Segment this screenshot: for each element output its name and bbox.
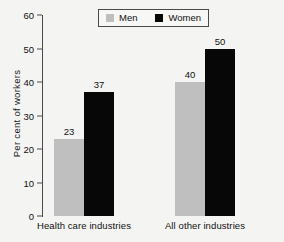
- bar-men-health-care: [54, 139, 84, 216]
- y-tick-label: 50: [8, 43, 34, 54]
- legend-item-men: Men: [106, 12, 137, 23]
- legend-label-women: Women: [168, 12, 201, 23]
- bar-value-label: 23: [64, 126, 75, 137]
- bar-value-label: 50: [215, 36, 226, 47]
- women-swatch-icon: [155, 14, 163, 22]
- y-tick-label: 20: [8, 144, 34, 155]
- bar-value-label: 37: [94, 79, 105, 90]
- y-tick-label: 30: [8, 110, 34, 121]
- x-axis-category-label: Health care industries: [37, 220, 131, 231]
- legend-item-women: Women: [155, 12, 201, 23]
- y-tick-label: 10: [8, 177, 34, 188]
- y-tick-label: 60: [8, 10, 34, 21]
- plot-area: [43, 15, 284, 216]
- bar-men-all-other: [175, 82, 205, 216]
- y-axis-tick-labels: 0 10 20 30 40 50 60: [8, 0, 34, 242]
- bar-women-health-care: [84, 92, 114, 216]
- bar-women-all-other: [205, 49, 235, 217]
- y-tick-label: 40: [8, 77, 34, 88]
- bar-chart: Per cent of workers 0 10 20 30 40 50 60 …: [0, 0, 284, 242]
- chart-legend: Men Women: [98, 9, 209, 27]
- legend-label-men: Men: [119, 12, 137, 23]
- x-axis-category-label: All other industries: [165, 220, 245, 231]
- bar-value-label: 40: [185, 69, 196, 80]
- y-tick-label: 0: [8, 211, 34, 222]
- men-swatch-icon: [106, 14, 114, 22]
